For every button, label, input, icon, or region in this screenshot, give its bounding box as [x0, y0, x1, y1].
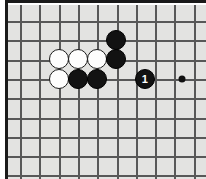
board-surface: 1: [6, 5, 206, 179]
grid-line-horizontal: [6, 137, 206, 139]
grid-line-horizontal: [6, 21, 206, 23]
board-edge-left: [5, 0, 8, 179]
grid-line-vertical: [20, 5, 22, 179]
black-stone-2: [106, 49, 126, 69]
grid-line-horizontal: [6, 156, 206, 158]
grid-line-vertical: [78, 5, 80, 179]
grid-line-horizontal: [6, 118, 206, 120]
grid-line-vertical: [97, 5, 99, 179]
hoshi-right: [179, 76, 186, 83]
grid-line-vertical: [39, 5, 41, 179]
stone-move-number: 1: [142, 74, 149, 85]
black-move-1: 1: [135, 69, 155, 89]
grid-line-horizontal: [6, 175, 206, 177]
white-stone-1: [49, 49, 69, 69]
white-stone-3: [87, 49, 107, 69]
grid-line-vertical: [155, 5, 157, 179]
grid-line-vertical: [59, 5, 61, 179]
grid-line-vertical: [136, 5, 138, 179]
grid-line-vertical: [174, 5, 176, 179]
white-stone-2: [68, 49, 88, 69]
grid-line-vertical: [194, 5, 196, 179]
grid-line-horizontal: [6, 98, 206, 100]
board-edge-top: [5, 0, 206, 3]
black-stone-3: [68, 69, 88, 89]
white-stone-4: [49, 69, 69, 89]
black-stone-1: [106, 30, 126, 50]
go-board-diagram: 1: [0, 0, 206, 179]
black-stone-4: [87, 69, 107, 89]
